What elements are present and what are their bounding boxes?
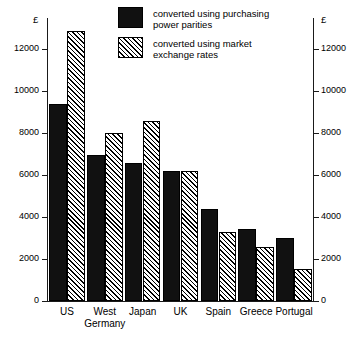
legend-item-market: converted using market exchange rates [118,37,269,60]
bar-spain-ppp [201,209,219,301]
legend-label-market: converted using market exchange rates [153,37,252,60]
y-tick-left-6000 [42,175,47,176]
y-tick-left-0 [42,301,47,302]
y-tick-left-8000 [42,133,47,134]
y-tick-label-right-4000: 4000 [321,212,341,221]
y-tick-label-right-2000: 2000 [321,254,341,263]
bar-spain-market [219,232,237,301]
legend-label-market-line2: exchange rates [153,49,252,60]
legend-label-ppp-line2: power parities [153,19,269,30]
y-tick-label-left-8000: 8000 [19,128,39,137]
y-tick-right-12000 [314,49,319,50]
y-tick-left-2000 [42,259,47,260]
bar-us-ppp [49,104,67,301]
legend-swatch-hatch-icon [118,37,143,58]
y-tick-label-right-10000: 10000 [321,86,346,95]
y-tick-label-left-12000: 12000 [14,44,39,53]
legend-label-ppp-line1: converted using purchasing [153,8,269,19]
legend-swatch-solid-icon [118,7,143,28]
y-tick-right-4000 [314,217,319,218]
legend-item-ppp: converted using purchasing power paritie… [118,7,269,30]
bar-uk-ppp [163,171,181,301]
y-tick-label-left-4000: 4000 [19,212,39,221]
bar-chart: £ £ 002000200040004000600060008000800010… [0,0,361,343]
y-tick-right-2000 [314,259,319,260]
bar-west-germany-market [105,133,123,301]
bar-greece-market [256,247,274,302]
y-tick-label-left-2000: 2000 [19,254,39,263]
y-tick-label-right-8000: 8000 [321,128,341,137]
legend: converted using purchasing power paritie… [118,7,269,67]
legend-label-market-line1: converted using market [153,38,252,49]
y-tick-label-right-12000: 12000 [321,44,346,53]
legend-label-ppp: converted using purchasing power paritie… [153,7,269,30]
y-axis-right-unit-label: £ [321,15,326,25]
y-axis-left-unit-label: £ [33,15,38,25]
bar-greece-ppp [238,229,256,301]
y-tick-left-10000 [42,91,47,92]
bar-group-us [49,18,85,301]
bar-west-germany-ppp [87,155,105,301]
y-tick-right-10000 [314,91,319,92]
y-tick-right-6000 [314,175,319,176]
bar-us-market [67,31,85,301]
bar-japan-market [143,121,161,301]
bar-portugal-ppp [276,238,294,301]
y-tick-label-left-10000: 10000 [14,86,39,95]
y-tick-right-8000 [314,133,319,134]
y-tick-left-12000 [42,49,47,50]
y-tick-label-left-6000: 6000 [19,170,39,179]
x-label-portugal: Portugal [254,306,334,318]
y-tick-label-left-0: 0 [34,296,39,305]
x-label-line: Germany [65,318,145,330]
y-tick-label-right-6000: 6000 [321,170,341,179]
x-label-line: Portugal [275,306,312,317]
y-tick-label-right-0: 0 [321,296,326,305]
y-tick-right-0 [314,301,319,302]
x-axis-line [47,301,314,302]
y-tick-left-4000 [42,217,47,218]
bar-group-portugal [276,18,312,301]
bar-portugal-market [294,269,312,301]
bar-uk-market [181,171,199,301]
bar-japan-ppp [125,163,143,301]
